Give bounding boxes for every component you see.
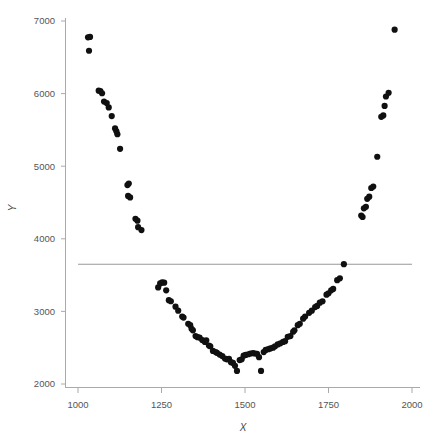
data-point: [258, 368, 264, 374]
y-tick-label: 4000: [34, 233, 55, 244]
data-point: [168, 298, 174, 304]
data-point: [175, 308, 181, 314]
data-point: [190, 327, 196, 333]
data-point: [366, 194, 372, 200]
chart-figure: 200030004000500060007000 100012501500175…: [0, 0, 438, 443]
data-point: [319, 298, 325, 304]
data-point: [87, 34, 93, 40]
scatter-plot: 200030004000500060007000 100012501500175…: [0, 0, 438, 443]
y-tick-label: 2000: [34, 378, 55, 389]
data-point: [99, 90, 105, 96]
data-point: [382, 103, 388, 109]
x-tick-label: 1500: [234, 399, 255, 410]
data-point: [155, 284, 161, 290]
data-point: [180, 314, 186, 320]
data-point: [386, 90, 392, 96]
data-point: [370, 183, 376, 189]
data-point: [380, 112, 386, 118]
data-point: [138, 227, 144, 233]
data-point: [330, 286, 336, 292]
y-tick-label: 3000: [34, 306, 55, 317]
data-point: [256, 354, 262, 360]
data-point: [86, 48, 92, 54]
data-point: [374, 154, 380, 160]
x-axis-title: X: [239, 422, 247, 433]
data-point: [341, 261, 347, 267]
data-point: [127, 194, 133, 200]
x-tick-label: 2000: [401, 399, 422, 410]
data-point: [163, 287, 169, 293]
data-point: [126, 181, 132, 187]
data-point: [106, 104, 112, 110]
data-point: [297, 321, 303, 327]
y-tick-label: 7000: [34, 15, 55, 26]
y-tick-label: 6000: [34, 88, 55, 99]
data-point: [117, 146, 123, 152]
x-tick-label: 1000: [67, 399, 88, 410]
data-point: [161, 280, 167, 286]
y-tick-label: 5000: [34, 161, 55, 172]
data-point: [114, 131, 120, 137]
data-point: [392, 27, 398, 33]
data-point: [363, 204, 369, 210]
data-point: [359, 214, 365, 220]
data-point: [234, 368, 240, 374]
data-point: [337, 275, 343, 281]
x-tick-label: 1750: [318, 399, 339, 410]
data-point: [109, 113, 115, 119]
x-tick-label: 1250: [151, 399, 172, 410]
data-point: [291, 327, 297, 333]
data-point: [134, 218, 140, 224]
